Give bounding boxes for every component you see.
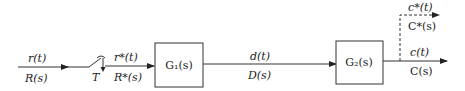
input-laplace-label: R(s) bbox=[24, 72, 48, 85]
sampler-switch-icon bbox=[89, 56, 106, 72]
sampled-output-time-label: c*(t) bbox=[408, 1, 433, 14]
sampled-laplace-label: R*(s) bbox=[113, 71, 142, 84]
g1-block-label: G₁(s) bbox=[165, 59, 192, 72]
intermediate-laplace-label: D(s) bbox=[247, 69, 271, 82]
block-diagram: r(t) R(s) T r*(t) R*(s) G₁(s) d(t) D(s) … bbox=[0, 0, 465, 91]
sampler-period-label: T bbox=[92, 71, 101, 84]
g2-block-label: G₂(s) bbox=[345, 56, 372, 69]
input-time-label: r(t) bbox=[28, 52, 46, 65]
sampled-output-arrowhead-icon bbox=[432, 12, 440, 18]
output-laplace-label: C(s) bbox=[410, 65, 433, 78]
sampled-output-laplace-label: C*(s) bbox=[408, 20, 436, 33]
intermediate-time-label: d(t) bbox=[250, 50, 270, 63]
sampled-time-label: r*(t) bbox=[114, 51, 138, 64]
output-time-label: c(t) bbox=[410, 46, 429, 59]
